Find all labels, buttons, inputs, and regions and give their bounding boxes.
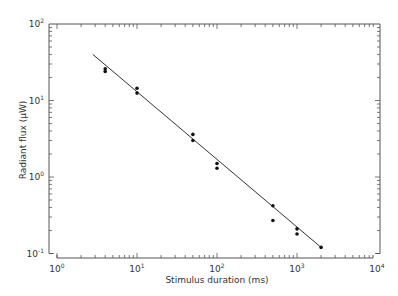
x-tick-label: 104 [369, 262, 384, 274]
x-axis-ticks [57, 24, 373, 258]
x-axis-title: Stimulus duration (ms) [165, 275, 268, 285]
y-tick-label: 100 [29, 170, 44, 182]
data-point [271, 219, 275, 223]
data-point [215, 162, 219, 166]
x-tick-label: 101 [129, 262, 144, 274]
data-point [103, 70, 107, 74]
data-point [295, 227, 299, 231]
data-point [271, 204, 275, 208]
y-axis-tick-labels: 10-1100101102 [27, 17, 45, 259]
fit-line [93, 54, 321, 247]
data-points [103, 67, 323, 249]
data-point [135, 91, 139, 95]
x-tick-label: 100 [49, 262, 64, 274]
data-point [215, 167, 219, 171]
y-tick-label: 10-1 [27, 247, 45, 259]
data-point [319, 246, 323, 250]
y-tick-label: 102 [29, 17, 44, 29]
y-axis-ticks [49, 28, 380, 254]
x-axis-tick-labels: 100101102103104 [49, 262, 384, 274]
data-point [295, 232, 299, 236]
x-tick-label: 102 [209, 262, 224, 274]
x-tick-label: 103 [289, 262, 304, 274]
data-point [191, 139, 195, 143]
y-axis-title: Radiant flux (μW) [18, 101, 28, 180]
log-log-scatter-chart: 100101102103104 10-1100101102 Stimulus d… [0, 0, 398, 296]
y-tick-label: 101 [29, 94, 44, 106]
data-point [191, 133, 195, 137]
data-point [135, 86, 139, 90]
